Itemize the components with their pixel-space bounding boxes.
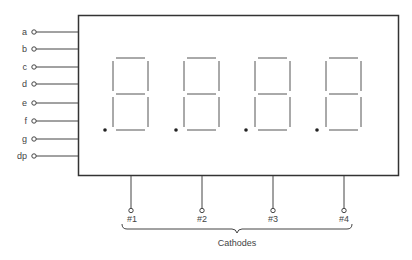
cathode-3: #3 [268, 176, 278, 224]
pin-label: a [22, 27, 27, 37]
cathode-label: #4 [339, 214, 349, 224]
pin-label: e [22, 98, 27, 108]
pin-d: d [22, 79, 78, 89]
cathodes-label: Cathodes [218, 238, 257, 248]
cathode-pins: #1 #2 #3 #4 [127, 176, 349, 224]
display-body [79, 16, 399, 176]
cathode-label: #3 [268, 214, 278, 224]
cathode-4: #4 [339, 176, 349, 224]
decimal-point [103, 128, 107, 132]
pin-b: b [22, 44, 78, 54]
cathode-label: #1 [127, 214, 137, 224]
cathode-label: #2 [197, 214, 207, 224]
pin-label: b [22, 44, 27, 54]
cathodes-brace [122, 224, 352, 233]
pin-a: a [22, 27, 78, 37]
pin-label: d [22, 79, 27, 89]
cathode-2: #2 [197, 176, 207, 224]
segment-pins: a b c d e f g dp [17, 27, 78, 161]
decimal-point [174, 128, 178, 132]
pin-e: e [22, 98, 78, 108]
decimal-point [315, 128, 319, 132]
cathode-1: #1 [127, 176, 137, 224]
pin-label: f [24, 116, 27, 126]
pin-label: dp [17, 151, 27, 161]
pin-label: c [23, 62, 28, 72]
pin-g: g [22, 134, 78, 144]
decimal-point [244, 128, 248, 132]
display-diagram: a b c d e f g dp #1 #2 #3 #4 Cathodes [0, 0, 412, 260]
pin-f: f [24, 116, 78, 126]
pin-label: g [22, 134, 27, 144]
pin-dp: dp [17, 151, 78, 161]
pin-c: c [23, 62, 79, 72]
